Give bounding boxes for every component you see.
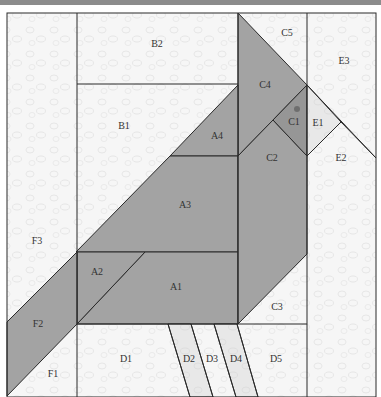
label-f1: F1: [48, 368, 59, 379]
label-d3: D3: [206, 353, 218, 364]
label-e2: E2: [335, 152, 346, 163]
label-d1: D1: [120, 353, 132, 364]
label-b1: B1: [118, 120, 130, 131]
label-d4: D4: [230, 353, 242, 364]
eye-icon: [294, 106, 300, 112]
label-a3: A3: [179, 199, 191, 210]
label-c2: C2: [266, 152, 278, 163]
label-c3: C3: [271, 301, 283, 312]
label-c5: C5: [281, 27, 293, 38]
label-f3: F3: [32, 235, 43, 246]
label-c1: C1: [288, 116, 300, 127]
label-d5: D5: [270, 353, 282, 364]
label-c4: C4: [259, 79, 271, 90]
label-b2: B2: [151, 38, 163, 49]
label-d2: D2: [183, 353, 195, 364]
quilt-diagram: B2 B1 A4 A3 A2 A1 C5 C4 C1 C2 C3 E3 E1 E…: [0, 0, 381, 397]
label-a4: A4: [211, 130, 223, 141]
label-f2: F2: [33, 318, 44, 329]
label-a1: A1: [170, 281, 182, 292]
label-e1: E1: [312, 117, 323, 128]
label-e3: E3: [338, 55, 349, 66]
label-a2: A2: [91, 266, 103, 277]
